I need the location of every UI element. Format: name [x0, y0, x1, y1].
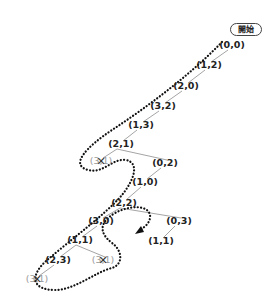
cross-out-icon: ✕: [98, 254, 107, 265]
node-label: (2,0): [173, 81, 199, 91]
pruned-node-label: (3,1)✕: [90, 156, 113, 166]
start-badge: 開始: [230, 23, 262, 36]
pruned-node-label: (3,1)✕: [26, 274, 49, 284]
node-label: (1,1): [148, 236, 174, 246]
cross-out-icon: ✕: [32, 273, 41, 284]
node-label: (1,0): [132, 177, 158, 187]
traversal-path: [35, 42, 222, 290]
node-label: (3,2): [150, 101, 176, 111]
search-tree-diagram: 開始 (0,0)(1,2)(2,0)(3,2)(1,3)(2,1)(3,1)✕(…: [0, 0, 272, 307]
node-label: (0,3): [166, 216, 192, 226]
node-label: (3,0): [88, 216, 114, 226]
node-label: (2,1): [108, 139, 134, 149]
node-label: (2,2): [111, 198, 137, 208]
cross-out-icon: ✕: [96, 155, 105, 166]
node-label: (1,1): [67, 235, 93, 245]
node-label: (2,3): [45, 255, 71, 265]
node-label: (0,2): [152, 158, 178, 168]
traversal-arrowhead-icon: [135, 226, 144, 234]
pruned-node-label: (3,1)✕: [92, 255, 115, 265]
node-label: (0,0): [219, 40, 245, 50]
node-label: (1,3): [128, 120, 154, 130]
node-label: (1,2): [196, 60, 222, 70]
